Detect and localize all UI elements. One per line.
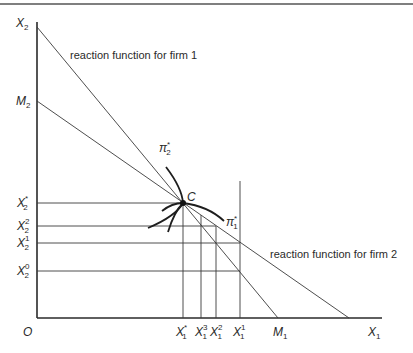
cournot-diagram: X2 X1 O M2 X*2 X22 X12 X02 X*1 X31 X21 X…: [0, 0, 413, 353]
y-tick-x2-0: X02: [16, 262, 30, 280]
x-tick-x1-2: X21: [209, 323, 223, 341]
y-tick-x2-1: X12: [16, 234, 30, 252]
equilibrium-label: C: [187, 190, 196, 204]
y-tick-m2: M2: [16, 94, 31, 110]
y-tick-x2-2: X22: [16, 217, 30, 235]
equilibrium-point: [180, 200, 186, 206]
y-tick-x2-star: X*2: [16, 194, 28, 212]
isoprofit-curve-firm1: [162, 203, 224, 221]
x-tick-x1-3: X31: [194, 323, 208, 341]
x-tick-m1: M1: [273, 325, 288, 341]
x-tick-x1-1: X11: [232, 323, 246, 341]
reaction-line-firm1: [37, 27, 278, 318]
reaction-firm1-label: reaction function for firm 1: [70, 49, 197, 61]
y-axis-label: X2: [15, 16, 29, 32]
reaction-line-firm2: [37, 101, 349, 318]
isoprofit-firm2-label: π*2: [159, 140, 171, 157]
x-axis-label: X1: [367, 325, 381, 341]
isoprofit-firm1-label: π*1: [226, 214, 238, 231]
reaction-firm2-label: reaction function for firm 2: [270, 248, 397, 260]
x-tick-x1-star: X*1: [175, 323, 187, 341]
origin-label: O: [23, 325, 32, 339]
